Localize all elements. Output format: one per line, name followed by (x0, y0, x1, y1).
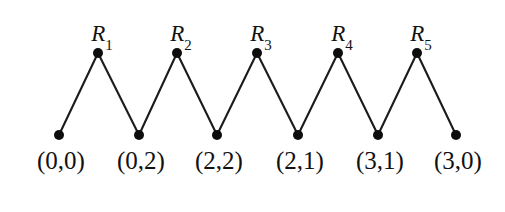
top-node-label-base: R (250, 21, 264, 46)
top-node-label-base: R (91, 21, 105, 46)
graph-node-bottom (212, 130, 222, 140)
top-node-label-subscript: 2 (184, 37, 192, 53)
graph-edge (417, 53, 456, 135)
graph-edge (217, 53, 257, 135)
graph-node-bottom (293, 130, 303, 140)
graph-node-bottom (134, 130, 144, 140)
top-node-label-base: R (410, 21, 424, 46)
graph-edge (98, 53, 139, 135)
graph-edge (139, 53, 177, 135)
graph-edge (378, 53, 417, 135)
graph-node-bottom (54, 130, 64, 140)
bottom-node-label: (0,2) (117, 148, 165, 173)
top-node-label: R2 (170, 22, 192, 50)
graph-edge (59, 53, 98, 135)
bottom-node-label: (0,0) (37, 148, 85, 173)
figure-canvas: R1R2R3R4R5 (0,0)(0,2)(2,2)(2,1)(3,1)(3,0… (0, 0, 505, 212)
graph-edge (257, 53, 298, 135)
bottom-node-label: (3,1) (356, 148, 404, 173)
top-node-label-base: R (170, 21, 184, 46)
top-node-label: R3 (250, 22, 272, 50)
top-node-label-subscript: 5 (424, 37, 432, 53)
graph-edge (298, 53, 338, 135)
graph-node-bottom (373, 130, 383, 140)
bottom-node-label: (2,1) (276, 148, 324, 173)
top-node-label-subscript: 3 (264, 37, 272, 53)
graph-edge (338, 53, 378, 135)
bottom-node-label: (3,0) (434, 148, 482, 173)
bottom-node-label: (2,2) (195, 148, 243, 173)
top-node-label-subscript: 1 (105, 37, 113, 53)
top-node-label-base: R (331, 21, 345, 46)
top-node-label: R1 (91, 22, 113, 50)
top-node-label: R4 (331, 22, 353, 50)
edge-layer (59, 53, 456, 135)
top-node-label: R5 (410, 22, 432, 50)
graph-edge (177, 53, 217, 135)
top-node-label-subscript: 4 (345, 37, 353, 53)
graph-node-bottom (451, 130, 461, 140)
node-layer (54, 48, 461, 140)
